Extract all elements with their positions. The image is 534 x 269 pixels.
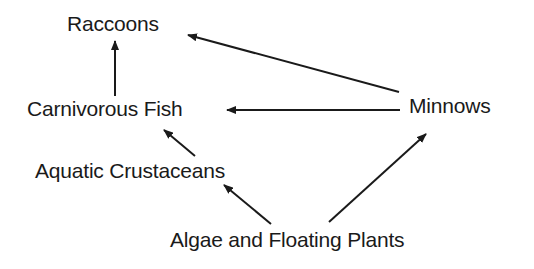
arrow-algae-to-aquatic-crustaceans [224,185,271,224]
node-aquatic-crustaceans: Aquatic Crustaceans [35,160,225,181]
food-web-diagram: Raccoons Carnivorous Fish Minnows Aquati… [0,0,534,269]
node-carnivorous-fish: Carnivorous Fish [27,98,183,119]
arrow-minnows-to-raccoons [188,35,399,92]
arrow-aquatic-crustaceans-to-carnivorous-fish [164,130,195,156]
arrow-algae-to-minnows [329,134,426,222]
node-raccoons: Raccoons [67,13,159,34]
node-minnows: Minnows [409,95,490,116]
node-algae-and-floating-plants: Algae and Floating Plants [170,229,404,250]
